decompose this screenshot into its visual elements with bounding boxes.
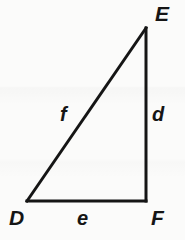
vertex-label-d: D <box>9 207 24 228</box>
geometry-figure-triangle-def: E D F f d e <box>0 0 185 240</box>
vertex-label-f: F <box>151 207 164 228</box>
side-label-e: e <box>77 208 88 228</box>
vertex-label-e: E <box>155 3 169 24</box>
triangle-side-f-hypotenuse <box>27 28 146 201</box>
side-label-f: f <box>60 104 67 124</box>
side-label-d: d <box>152 104 164 124</box>
